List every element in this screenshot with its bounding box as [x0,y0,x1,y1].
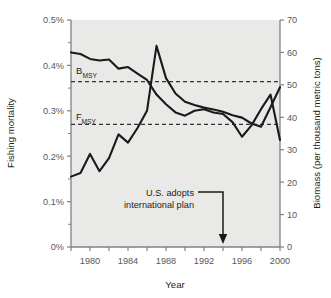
right-tick-label: 60 [287,48,297,58]
right-tick-label: 30 [287,145,297,155]
annotation-line-2: international plan [124,200,194,210]
x-tick-label: 1996 [232,256,252,266]
right-tick-label: 10 [287,210,297,220]
left-tick-label: 0.1% [43,197,64,207]
left-axis-ticks: 0%0.1%0.2%0.3%0.4%0.5% [43,15,71,252]
right-tick-label: 50 [287,80,297,90]
x-axis-title: Year [165,279,185,290]
bmsy-label: B [76,65,82,76]
right-tick-label: 0 [287,242,292,252]
annotation-line-1: U.S. adopts [146,188,194,198]
y2-axis-title: Biomass (per thousand metric tons) [311,57,322,208]
fisheries-line-chart: 0%0.1%0.2%0.3%0.4%0.5% 010203040506070 1… [0,0,331,298]
plot-background [71,20,280,247]
left-tick-label: 0.2% [43,152,64,162]
bmsy-sublabel: MSY [83,72,98,79]
chart-figure: 0%0.1%0.2%0.3%0.4%0.5% 010203040506070 1… [0,0,331,298]
x-tick-label: 1992 [194,256,214,266]
left-tick-label: 0% [51,242,64,252]
x-tick-label: 1988 [156,256,176,266]
left-tick-label: 0.5% [43,15,64,25]
x-axis-ticks: 198019841988199219962000 [71,247,290,266]
right-tick-label: 40 [287,113,297,123]
right-tick-label: 70 [287,15,297,25]
fmsy-sublabel: MSY [82,118,97,125]
x-tick-label: 2000 [270,256,290,266]
left-tick-label: 0.4% [43,61,64,71]
left-tick-label: 0.3% [43,106,64,116]
y-axis-title: Fishing mortality [5,98,16,168]
right-axis-ticks: 010203040506070 [280,15,297,252]
right-tick-label: 20 [287,178,297,188]
x-tick-label: 1984 [118,256,138,266]
x-tick-label: 1980 [80,256,100,266]
